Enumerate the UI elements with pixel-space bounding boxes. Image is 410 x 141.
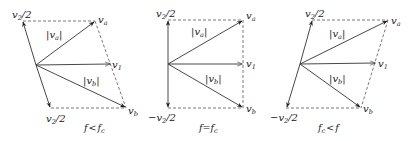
vector-v2-half-down — [36, 65, 50, 107]
vector-vb — [300, 64, 360, 107]
label-v1: v1 — [378, 58, 388, 71]
label-vb: vb — [128, 105, 138, 118]
panel-fc-less-f: v2/2 va v1 vb −v2/2 |va| |vb| fc<f — [270, 8, 401, 135]
panel-f-less-fc: v2/2 va v1 vb v2/2 |va| |vb| f<fc — [12, 9, 138, 135]
vector-vb — [36, 65, 125, 107]
caption-fc-less-f: fc<f — [317, 122, 340, 135]
label-top-left: v2/2 — [156, 8, 176, 21]
label-top-left: v2/2 — [305, 8, 325, 21]
caption-f-less-fc: f<fc — [83, 122, 105, 135]
label-bottom-left: −v2/2 — [148, 112, 176, 125]
vector-v2-half-up — [300, 21, 312, 64]
vector-v2-half-up — [23, 22, 36, 65]
label-va: va — [391, 15, 401, 28]
label-bottom-left: v2/2 — [46, 113, 66, 126]
vector-vb — [168, 64, 242, 107]
label-va: va — [246, 10, 256, 23]
label-v1: v1 — [246, 58, 256, 71]
label-mag-va: |va| — [329, 28, 345, 41]
label-bottom-left: −v2/2 — [270, 112, 298, 125]
label-top-left: v2/2 — [12, 9, 32, 22]
label-mag-va: |va| — [191, 26, 207, 39]
label-mag-vb: |vb| — [83, 75, 100, 88]
label-mag-va: |va| — [46, 29, 62, 42]
label-vb: vb — [363, 103, 373, 116]
vector-v2-half-down — [287, 64, 300, 107]
caption-f-equal-fc: f=fc — [198, 122, 218, 135]
label-mag-vb: |vb| — [205, 73, 222, 86]
vector-va — [36, 22, 94, 65]
label-v1: v1 — [112, 59, 122, 72]
phasor-diagrams: v2/2 va v1 vb v2/2 |va| |vb| f<fc v2/2 v… — [0, 0, 410, 141]
panel-f-equal-fc: v2/2 va v1 vb −v2/2 |va| |vb| f=fc — [148, 8, 256, 135]
vector-v1 — [300, 63, 375, 64]
label-mag-vb: |vb| — [329, 73, 346, 86]
label-va: va — [98, 14, 108, 27]
label-vb: vb — [246, 103, 256, 116]
vector-v1 — [36, 64, 110, 65]
